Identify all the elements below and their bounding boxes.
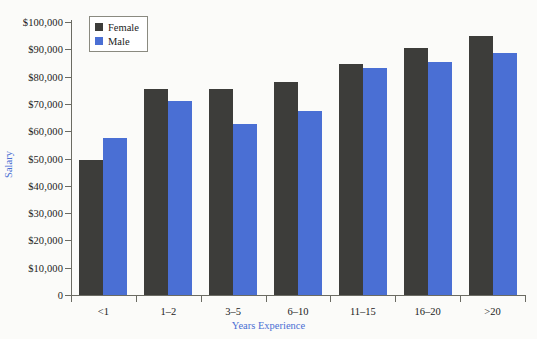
y-tick-mark xyxy=(65,159,71,160)
y-tick-label: $30,000 xyxy=(28,208,63,219)
legend-label: Female xyxy=(108,22,139,33)
y-tick-label: $20,000 xyxy=(28,235,63,246)
y-tick-label: $40,000 xyxy=(28,180,63,191)
y-tick-mark xyxy=(65,131,71,132)
x-tick-mark xyxy=(266,295,267,302)
chart-legend: FemaleMale xyxy=(89,16,148,52)
legend-swatch-icon xyxy=(95,37,103,45)
bar-female-0 xyxy=(79,160,103,295)
y-tick-label: $80,000 xyxy=(28,71,63,82)
bar-male-4 xyxy=(363,68,387,295)
y-tick-mark xyxy=(65,49,71,50)
x-axis-category-label: 3–5 xyxy=(225,306,241,317)
y-tick-mark xyxy=(65,213,71,214)
y-tick-mark xyxy=(65,22,71,23)
x-axis-category-label: 6–10 xyxy=(288,306,309,317)
legend-item-male: Male xyxy=(95,34,139,48)
bar-female-4 xyxy=(339,64,363,295)
y-tick-mark xyxy=(65,240,71,241)
legend-label: Male xyxy=(108,36,130,47)
bar-male-2 xyxy=(233,124,257,295)
y-tick-label: $60,000 xyxy=(28,126,63,137)
y-tick-label: $90,000 xyxy=(28,44,63,55)
legend-swatch-icon xyxy=(95,23,103,31)
y-tick-mark xyxy=(65,186,71,187)
bar-male-3 xyxy=(298,111,322,295)
y-tick-label: $50,000 xyxy=(28,153,63,164)
x-tick-mark xyxy=(525,295,526,302)
x-tick-mark xyxy=(201,295,202,302)
bar-female-3 xyxy=(274,82,298,295)
bar-female-2 xyxy=(209,89,233,295)
x-tick-mark xyxy=(71,295,72,302)
x-axis-category-label: >20 xyxy=(484,306,500,317)
x-axis-line xyxy=(71,295,526,296)
bar-female-6 xyxy=(469,36,493,295)
y-tick-mark xyxy=(65,77,71,78)
bar-female-5 xyxy=(404,48,428,295)
bar-male-1 xyxy=(168,101,192,295)
x-tick-mark xyxy=(460,295,461,302)
y-axis-title: Salary xyxy=(3,151,14,178)
bar-male-6 xyxy=(493,53,517,295)
x-tick-mark xyxy=(330,295,331,302)
plot-area: 0$10,000$20,000$30,000$40,000$50,000$60,… xyxy=(71,22,525,295)
y-tick-label: $70,000 xyxy=(28,98,63,109)
bar-female-1 xyxy=(144,89,168,295)
x-axis-category-label: 11–15 xyxy=(350,306,376,317)
x-axis-category-label: <1 xyxy=(98,306,109,317)
legend-item-female: Female xyxy=(95,20,139,34)
y-tick-label: $100,000 xyxy=(23,17,63,28)
x-axis-category-label: 1–2 xyxy=(160,306,176,317)
y-tick-label: $10,000 xyxy=(28,262,63,273)
bar-male-5 xyxy=(428,62,452,295)
y-tick-mark xyxy=(65,104,71,105)
x-tick-mark xyxy=(136,295,137,302)
x-tick-mark xyxy=(395,295,396,302)
y-tick-label: 0 xyxy=(58,290,63,301)
y-tick-mark xyxy=(65,268,71,269)
x-axis-title: Years Experience xyxy=(0,320,537,331)
salary-by-experience-bar-chart: 0$10,000$20,000$30,000$40,000$50,000$60,… xyxy=(0,0,537,339)
x-axis-category-label: 16–20 xyxy=(415,306,441,317)
bar-male-0 xyxy=(103,138,127,295)
